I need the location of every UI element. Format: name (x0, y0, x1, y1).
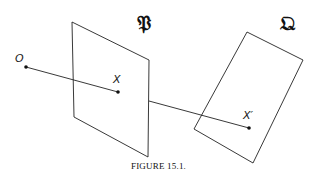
label-plane-q: 𝔔 (279, 11, 296, 35)
plane-q (194, 32, 303, 163)
ray-x-to-xprime (149, 101, 249, 128)
projection-diagram: O X X′ 𝔓 𝔔 (0, 0, 317, 175)
point-o (24, 65, 28, 69)
label-o: O (15, 52, 24, 65)
figure-caption: FIGURE 15.1. (0, 161, 317, 171)
label-xprime: X′ (242, 109, 254, 122)
label-plane-p: 𝔓 (137, 11, 151, 35)
label-x: X (112, 73, 121, 86)
point-x (116, 90, 120, 94)
ray-o-to-x (26, 67, 118, 92)
point-xprime (247, 126, 251, 130)
